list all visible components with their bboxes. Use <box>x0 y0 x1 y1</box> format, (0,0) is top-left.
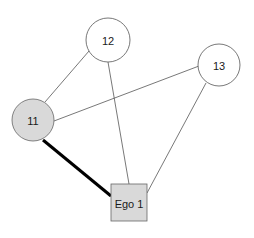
edge-11-ego1-strong <box>43 140 111 196</box>
node-11: 11 <box>12 99 54 141</box>
edges-layer <box>43 51 206 196</box>
edge-12-ego1 <box>108 62 129 184</box>
nodes-layer: 12 13 11 Ego 1 <box>12 18 240 221</box>
node-ego1: Ego 1 <box>111 184 147 221</box>
node-ego1-label: Ego 1 <box>115 198 144 210</box>
ego-network-diagram: 12 13 11 Ego 1 <box>0 0 254 238</box>
node-13: 13 <box>198 44 240 86</box>
edge-11-13 <box>54 66 199 121</box>
node-13-label: 13 <box>213 60 225 72</box>
node-12: 12 <box>86 18 130 62</box>
node-12-label: 12 <box>102 35 114 47</box>
node-11-label: 11 <box>27 115 38 127</box>
edge-11-12 <box>45 51 89 102</box>
edge-13-ego1 <box>147 83 206 193</box>
